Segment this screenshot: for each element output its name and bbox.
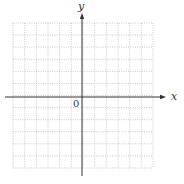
y-axis-label: y	[77, 0, 85, 13]
y-axis-arrow-icon	[80, 13, 84, 19]
origin-label: 0	[73, 98, 79, 109]
coordinate-plane: x y 0	[0, 0, 184, 184]
x-axis-label: x	[171, 90, 178, 103]
x-axis-arrow-icon	[160, 95, 166, 99]
grid-lines	[13, 23, 153, 168]
